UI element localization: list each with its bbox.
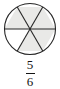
fraction-numerator: 5 xyxy=(27,58,34,72)
fraction-pie-diagram: 5 6 xyxy=(0,0,60,89)
pie-chart-container xyxy=(0,0,60,58)
fraction-denominator: 6 xyxy=(27,75,34,89)
pie-chart-svg xyxy=(0,0,60,58)
fraction-caption: 5 6 xyxy=(0,58,60,89)
